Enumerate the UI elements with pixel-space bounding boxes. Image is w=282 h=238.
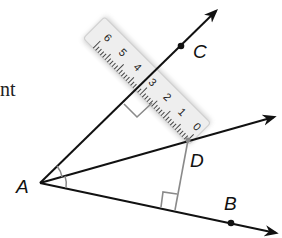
point-C xyxy=(178,43,185,50)
ray-AB xyxy=(40,183,276,233)
label-A: A xyxy=(15,176,29,197)
label-C: C xyxy=(193,41,207,62)
label-D: D xyxy=(190,150,204,171)
point-B xyxy=(228,220,235,227)
angle-arc-lower xyxy=(65,176,66,188)
angle-arc-upper xyxy=(57,166,62,177)
perpendicular-D-to-AB xyxy=(175,140,188,210)
right-angle-marker-AB xyxy=(161,192,177,207)
label-B: B xyxy=(224,193,237,214)
point-D xyxy=(186,138,191,143)
angle-bisector-diagram: 0 1 2 3 4 5 6 A B C D xyxy=(0,0,282,238)
